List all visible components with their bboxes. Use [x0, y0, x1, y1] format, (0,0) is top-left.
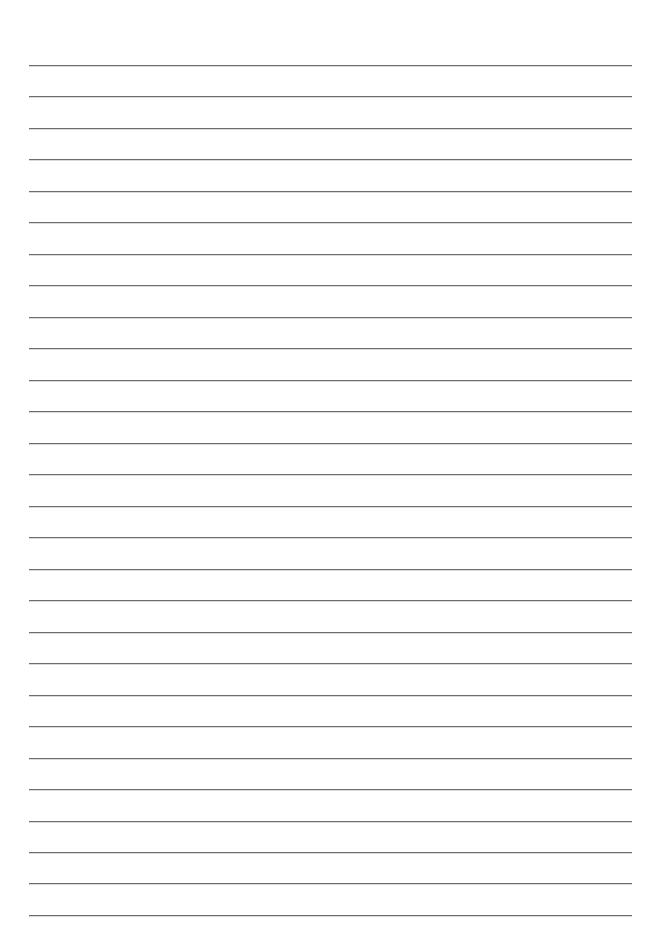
ruled-line: [29, 128, 632, 129]
ruled-line: [29, 789, 632, 790]
ruled-line: [29, 632, 632, 633]
ruled-line: [29, 474, 632, 475]
ruled-line: [29, 65, 632, 66]
ruled-line: [29, 411, 632, 412]
ruled-line: [29, 600, 632, 601]
ruled-line: [29, 348, 632, 349]
ruled-line: [29, 96, 632, 97]
ruled-line: [29, 222, 632, 223]
ruled-line: [29, 191, 632, 192]
ruled-line: [29, 506, 632, 507]
ruled-line: [29, 883, 632, 884]
ruled-line: [29, 852, 632, 853]
ruled-line: [29, 443, 632, 444]
ruled-line: [29, 537, 632, 538]
ruled-line: [29, 380, 632, 381]
ruled-line: [29, 254, 632, 255]
ruled-line: [29, 285, 632, 286]
ruled-line: [29, 695, 632, 696]
ruled-line: [29, 758, 632, 759]
ruled-line: [29, 726, 632, 727]
ruled-line: [29, 159, 632, 160]
lined-paper-page: [0, 0, 660, 939]
ruled-line: [29, 663, 632, 664]
ruled-line: [29, 317, 632, 318]
ruled-line: [29, 821, 632, 822]
ruled-line: [29, 915, 632, 916]
ruled-line: [29, 569, 632, 570]
